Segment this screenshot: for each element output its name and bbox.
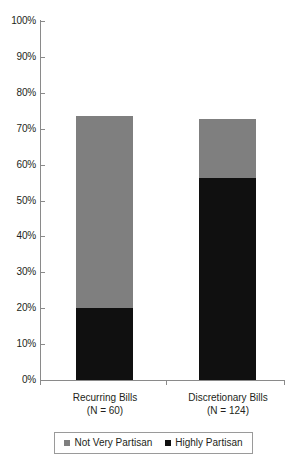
y-axis-tick-label: 90% xyxy=(0,52,36,62)
bar-recurring-bills xyxy=(76,116,133,380)
y-axis-tick-mark xyxy=(40,57,45,58)
bar-segment-not-very-partisan xyxy=(199,119,256,178)
y-axis-tick-label: 0% xyxy=(0,375,36,385)
y-axis-tick-mark xyxy=(40,129,45,130)
chart-legend: Not Very Partisan Highly Partisan xyxy=(54,432,253,454)
legend-item-not-very-partisan: Not Very Partisan xyxy=(64,438,152,448)
category-label-discretionary-bills: Discretionary Bills (N = 124) xyxy=(165,392,291,417)
y-axis-tick-mark xyxy=(40,21,45,22)
y-axis-tick-label: 50% xyxy=(0,196,36,206)
y-axis-tick-label: 100% xyxy=(0,16,36,26)
bar-discretionary-bills xyxy=(199,119,256,380)
legend-item-highly-partisan: Highly Partisan xyxy=(165,438,242,448)
y-axis-tick-mark xyxy=(40,93,45,94)
legend-swatch-icon xyxy=(165,440,171,446)
y-axis-tick-label: 70% xyxy=(0,124,36,134)
category-label-line2: (N = 60) xyxy=(42,405,168,418)
y-axis-tick-mark xyxy=(40,236,45,237)
x-axis-tick-start xyxy=(40,380,41,385)
y-axis-tick-label: 60% xyxy=(0,160,36,170)
category-label-line1: Recurring Bills xyxy=(73,392,137,403)
legend-swatch-icon xyxy=(64,440,70,446)
category-label-line1: Discretionary Bills xyxy=(188,392,267,403)
x-axis-tick-middle xyxy=(166,380,167,385)
y-axis-tick-label: 40% xyxy=(0,231,36,241)
legend-label: Highly Partisan xyxy=(175,438,242,448)
stacked-bar-chart: 0%10%20%30%40%50%60%70%80%90%100% Recurr… xyxy=(0,0,292,457)
y-axis-tick-label: 10% xyxy=(0,339,36,349)
bar-segment-not-very-partisan xyxy=(76,116,133,308)
y-axis-tick-mark xyxy=(40,201,45,202)
category-label-recurring-bills: Recurring Bills (N = 60) xyxy=(42,392,168,417)
x-axis-line xyxy=(40,380,285,381)
y-axis-tick-label: 30% xyxy=(0,267,36,277)
y-axis-tick-label: 80% xyxy=(0,88,36,98)
y-axis-tick-mark xyxy=(40,308,45,309)
y-axis-tick-mark xyxy=(40,344,45,345)
category-label-line2: (N = 124) xyxy=(165,405,291,418)
y-axis-tick-label: 20% xyxy=(0,303,36,313)
y-axis-tick-mark xyxy=(40,272,45,273)
x-axis-tick-end xyxy=(284,380,285,385)
y-axis-tick-mark xyxy=(40,165,45,166)
legend-label: Not Very Partisan xyxy=(74,438,152,448)
bar-segment-highly-partisan xyxy=(76,308,133,380)
bar-segment-highly-partisan xyxy=(199,178,256,380)
